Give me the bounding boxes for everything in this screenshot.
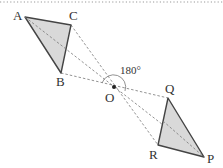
label-b: B — [56, 74, 65, 89]
line-c-r — [71, 25, 158, 145]
point-symmetry-diagram: A C B O 180° Q R P — [0, 0, 223, 168]
label-a: A — [13, 8, 23, 23]
diagram-canvas: A C B O 180° Q R P — [0, 0, 223, 168]
label-rotation-angle: 180° — [120, 64, 141, 76]
label-r: R — [149, 147, 158, 162]
triangle-abc — [25, 17, 71, 73]
label-q: Q — [165, 81, 175, 96]
label-c: C — [69, 8, 78, 23]
label-p: P — [207, 151, 214, 166]
triangle-pqr — [158, 98, 204, 157]
center-point-o — [112, 85, 116, 89]
label-o: O — [105, 90, 114, 105]
